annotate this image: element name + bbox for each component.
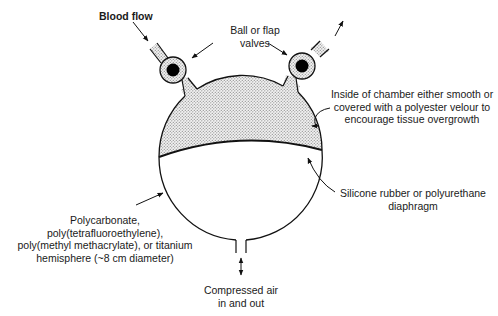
ball-icon bbox=[296, 60, 309, 73]
housing-label-line4: hemisphere (~8 cm diameter) bbox=[10, 252, 200, 265]
housing-label-line1: Polycarbonate, bbox=[10, 214, 200, 227]
air-port bbox=[236, 240, 246, 253]
diaphragm-label-line2: diaphragm bbox=[334, 200, 492, 213]
valves-label: Ball or flap valves bbox=[215, 24, 295, 49]
housing-label-line2: poly(tetrafluoroethylene), bbox=[10, 227, 200, 240]
blood-out-arrow-icon bbox=[335, 21, 343, 36]
chamber-label-line3: encourage tissue overgrowth bbox=[326, 113, 498, 126]
housing-arrow-icon bbox=[136, 193, 163, 205]
ball-icon bbox=[167, 64, 180, 77]
diaphragm-label: Silicone rubber or polyurethane diaphrag… bbox=[334, 187, 492, 212]
valve-left-arrow-icon bbox=[192, 43, 213, 58]
housing-label: Polycarbonate, poly(tetrafluoroethylene)… bbox=[10, 214, 200, 264]
valves-label-line1: Ball or flap bbox=[215, 24, 295, 37]
air-label-line1: Compressed air bbox=[196, 284, 286, 297]
air-label-line2: in and out bbox=[196, 297, 286, 310]
air-label: Compressed air in and out bbox=[196, 284, 286, 309]
inlet-valve bbox=[150, 43, 197, 96]
chamber-label-line2: covered with a polyester velour to bbox=[326, 101, 498, 114]
diaphragm-label-line1: Silicone rubber or polyurethane bbox=[334, 187, 492, 200]
blood-in-arrow-icon bbox=[133, 22, 148, 41]
housing-label-line3: poly(methyl methacrylate), or titanium bbox=[10, 239, 200, 252]
chamber-label-line1: Inside of chamber either smooth or bbox=[326, 88, 498, 101]
blood-flow-label: Blood flow bbox=[99, 10, 153, 23]
valves-label-line2: valves bbox=[215, 37, 295, 50]
chamber-label: Inside of chamber either smooth or cover… bbox=[326, 88, 498, 126]
